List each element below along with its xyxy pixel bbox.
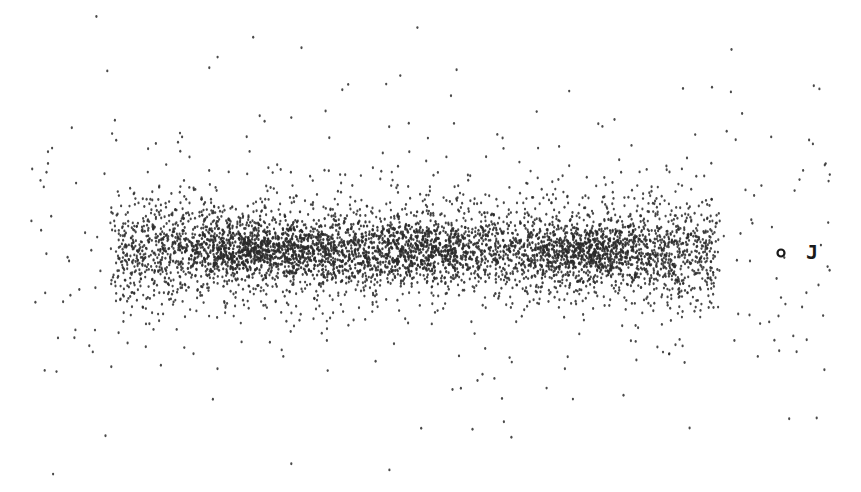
- annotation-label-j: J: [806, 240, 818, 264]
- annotation-marker-j: [778, 250, 785, 257]
- scatter-plot: [0, 0, 861, 492]
